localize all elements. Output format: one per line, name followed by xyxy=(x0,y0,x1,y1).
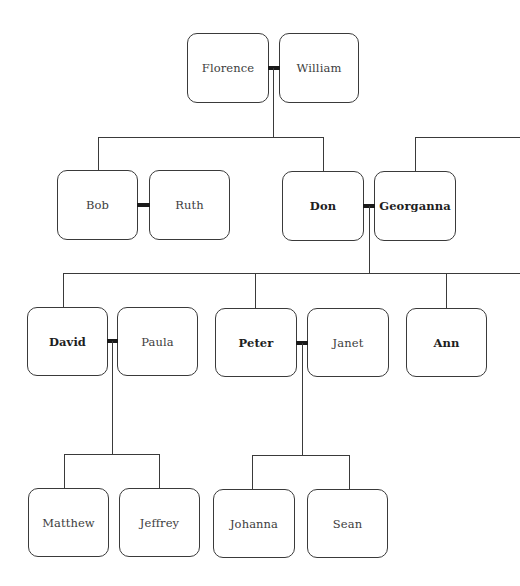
child-line-matthew xyxy=(64,454,65,489)
child-line-sean xyxy=(349,455,350,490)
person-johanna[interactable]: Johanna xyxy=(213,489,295,558)
child-line-jeffrey xyxy=(159,454,160,489)
child-line-ann xyxy=(446,273,447,309)
person-name: Paula xyxy=(141,335,174,349)
person-name: Johanna xyxy=(230,517,278,531)
person-name: Georganna xyxy=(379,199,450,213)
person-peter[interactable]: Peter xyxy=(215,308,297,377)
person-don[interactable]: Don xyxy=(282,171,364,241)
person-jeffrey[interactable]: Jeffrey xyxy=(119,488,200,557)
person-name: Ann xyxy=(434,336,460,350)
person-paula[interactable]: Paula xyxy=(117,307,198,376)
descent-line-don-georganna xyxy=(369,206,370,274)
child-line-david xyxy=(63,273,64,308)
person-florence[interactable]: Florence xyxy=(187,33,269,103)
person-name: Don xyxy=(310,199,336,213)
person-janet[interactable]: Janet xyxy=(307,308,389,377)
person-name: Peter xyxy=(239,336,274,350)
descent-line-peter-janet xyxy=(302,343,303,455)
parent-line-georganna-offscreen xyxy=(415,137,520,138)
child-line-bob xyxy=(98,137,99,171)
person-name: David xyxy=(49,335,86,349)
sibling-line-johanna-sean xyxy=(252,455,350,456)
sibling-line-matthew-jeffrey xyxy=(64,454,160,455)
child-line-johanna xyxy=(252,455,253,490)
sibling-line-bob-don xyxy=(98,137,324,138)
person-name: Florence xyxy=(202,61,254,75)
descent-line-david-paula xyxy=(112,341,113,454)
person-name: Jeffrey xyxy=(140,516,179,530)
person-bob[interactable]: Bob xyxy=(57,170,138,240)
person-sean[interactable]: Sean xyxy=(307,489,388,558)
person-david[interactable]: David xyxy=(27,307,108,376)
person-name: William xyxy=(297,61,342,75)
child-line-don xyxy=(323,137,324,172)
person-ruth[interactable]: Ruth xyxy=(149,170,230,240)
person-georganna[interactable]: Georganna xyxy=(374,171,456,241)
person-name: Matthew xyxy=(42,516,95,530)
person-matthew[interactable]: Matthew xyxy=(28,488,109,557)
descent-line-florence-william xyxy=(273,68,274,138)
child-line-georganna xyxy=(415,137,416,172)
person-name: Sean xyxy=(333,517,362,531)
marriage-bar-bob-ruth xyxy=(137,203,150,207)
person-william[interactable]: William xyxy=(279,33,359,103)
person-name: Janet xyxy=(333,336,364,350)
sibling-line-david-peter-ann xyxy=(63,273,520,274)
child-line-peter xyxy=(255,273,256,309)
family-tree-diagram: Florence William Bob Ruth Don Georganna … xyxy=(0,0,520,586)
person-name: Ruth xyxy=(175,198,204,212)
person-ann[interactable]: Ann xyxy=(406,308,487,377)
person-name: Bob xyxy=(86,198,109,212)
